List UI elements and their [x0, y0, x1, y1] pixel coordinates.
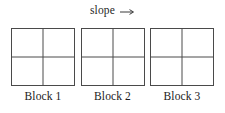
- arrow-right-icon: [120, 8, 135, 16]
- block-grid-2: [81, 28, 145, 86]
- slope-header: slope: [0, 3, 225, 19]
- block-caption-2: Block 2: [81, 88, 145, 106]
- blocks-row: [11, 28, 214, 86]
- block-grid-1: [11, 28, 75, 86]
- labels-row: Block 1 Block 2 Block 3: [11, 88, 214, 106]
- block-group-3: [150, 28, 214, 86]
- block-group-2: [81, 28, 145, 86]
- block-caption-1: Block 1: [11, 88, 75, 106]
- block-caption-3: Block 3: [150, 88, 214, 106]
- block-grid-3: [150, 28, 214, 86]
- block-group-1: [11, 28, 75, 86]
- slope-label: slope: [90, 5, 115, 17]
